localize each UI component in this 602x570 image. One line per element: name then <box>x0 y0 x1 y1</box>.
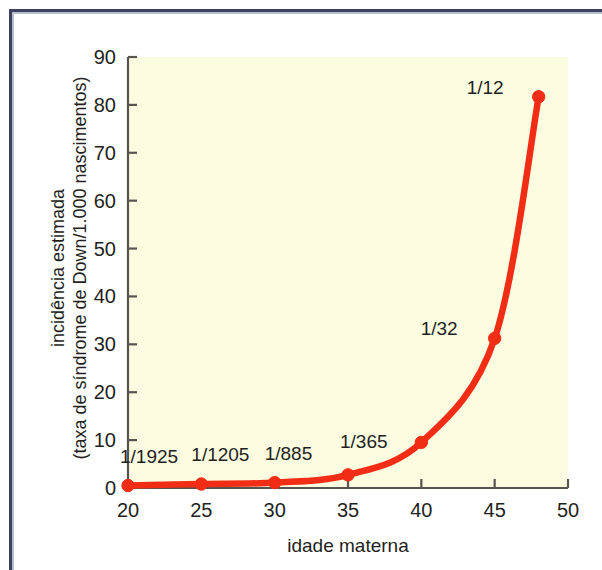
x-tick-label: 30 <box>252 500 298 520</box>
data-point-marker <box>488 332 500 344</box>
data-point-marker <box>268 476 280 488</box>
data-point-label: 1/885 <box>265 444 313 463</box>
y-axis-title-line1: incidência estimada <box>48 48 70 488</box>
data-point-label: 1/32 <box>421 319 458 338</box>
data-point-label: 1/12 <box>467 78 504 97</box>
y-axis-title: incidência estimada (taxa de síndrome de… <box>48 48 96 488</box>
x-tick-label: 40 <box>398 500 444 520</box>
data-point-label: 1/365 <box>340 432 388 451</box>
x-tick-label: 25 <box>178 500 224 520</box>
axes <box>128 57 568 488</box>
y-axis-title-line2: (taxa de síndrome de Down/1.000 nascimen… <box>70 48 92 488</box>
data-markers <box>122 91 545 492</box>
x-tick-label: 35 <box>325 500 371 520</box>
data-point-marker <box>532 91 544 103</box>
data-point-marker <box>122 479 134 491</box>
data-point-label: 1/1925 <box>120 447 178 466</box>
x-tick-label: 20 <box>105 500 151 520</box>
x-axis-title: idade materna <box>128 535 568 557</box>
series-line <box>128 97 539 486</box>
chart: 0102030405060708090 20253035404550 1/192… <box>0 0 602 570</box>
data-curve <box>128 97 539 486</box>
x-tick-label: 45 <box>472 500 518 520</box>
figure-page: 0102030405060708090 20253035404550 1/192… <box>0 0 602 570</box>
x-tick-label: 50 <box>545 500 591 520</box>
data-point-label: 1/1205 <box>191 445 249 464</box>
y-axis-ticks <box>128 57 137 440</box>
data-point-marker <box>195 478 207 490</box>
data-point-marker <box>415 436 427 448</box>
data-point-marker <box>342 469 354 481</box>
